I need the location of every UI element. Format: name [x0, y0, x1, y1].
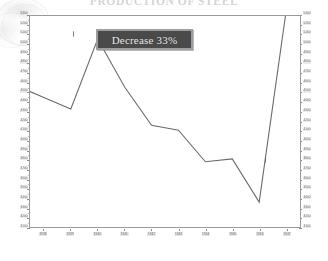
- x-axis-tickmark: [43, 229, 44, 231]
- y-axis-tick-label: 3300: [303, 206, 311, 212]
- x-axis-tickmark: [124, 229, 125, 231]
- x-axis-tickmark: [70, 229, 71, 231]
- x-axis: 1938193919401941194219431944194519461947: [29, 229, 301, 243]
- x-axis-tick-label: 1938: [39, 232, 47, 236]
- y-axis-tick-label: 4400: [303, 99, 311, 105]
- y-axis-tick-label: 4100: [303, 128, 311, 134]
- y-axis-tick-label: 5300: [303, 12, 311, 18]
- x-axis-tickmark: [260, 229, 261, 231]
- y-axis-tick-label: 5200: [303, 22, 311, 28]
- y-axis-tick-label: 3700: [303, 167, 311, 173]
- x-axis-tickmark: [233, 229, 234, 231]
- x-axis-tick-label: 1942: [147, 232, 155, 236]
- y-axis-tick-label: 5100: [303, 31, 311, 37]
- y-axis-tick-label: 3400: [303, 196, 311, 202]
- y-axis-tick-label: 4800: [303, 60, 311, 66]
- x-axis-tickmark: [179, 229, 180, 231]
- y-axis-tick-label: 4500: [303, 89, 311, 95]
- x-axis-tick-label: 1947: [283, 232, 291, 236]
- y-axis-tick-label: 4000: [303, 138, 311, 144]
- x-axis-tick-label: 1943: [174, 232, 182, 236]
- y-axis-right: 5300520051005000490048004700460045004400…: [302, 15, 328, 228]
- callout-decrease: Decrease 33%: [96, 29, 193, 50]
- y-axis-tick-label: 4200: [303, 119, 311, 125]
- y-axis-tick-label: 3600: [303, 177, 311, 183]
- y-axis-tick-label: 3800: [303, 157, 311, 163]
- chart-title: PRODUCTION OF STEEL: [0, 0, 328, 7]
- x-axis-tick-label: 1941: [120, 232, 128, 236]
- y-axis-tick-label: 4700: [303, 70, 311, 76]
- x-axis-tickmark: [151, 229, 152, 231]
- x-axis-tick-label: 1946: [256, 232, 264, 236]
- x-axis-tick-label: 1939: [66, 232, 74, 236]
- x-axis-tickmark: [287, 229, 288, 231]
- x-axis-tick-label: 1940: [93, 232, 101, 236]
- y-axis-tick-label: 4600: [303, 80, 311, 86]
- y-axis-tick-label: 3900: [303, 148, 311, 154]
- x-axis-tick-label: 1945: [229, 232, 237, 236]
- y-axis-tick-label: 4300: [303, 109, 311, 115]
- y-axis-tick-label: 3200: [303, 215, 311, 221]
- y-axis-tick-label: 5000: [303, 41, 311, 47]
- x-axis-tickmark: [97, 229, 98, 231]
- y-axis-tick-label: 3500: [303, 186, 311, 192]
- callout-label: Decrease 33%: [112, 34, 178, 46]
- y-axis-tick-label: 3100: [303, 225, 311, 231]
- x-axis-tickmark: [206, 229, 207, 231]
- x-axis-tick-label: 1944: [202, 232, 210, 236]
- y-axis-tick-label: 4900: [303, 51, 311, 57]
